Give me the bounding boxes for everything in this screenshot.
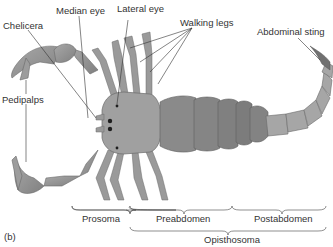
lower-pedipalp [12,150,98,193]
label-prosoma: Prosoma [82,213,120,224]
panel-label: (b) [4,231,16,242]
label-postabdomen: Postabdomen [254,213,313,224]
label-abdominal-sting: Abdominal sting [257,26,325,37]
lateral-eye-dot [116,147,119,150]
lateral-eye-dot [116,105,119,108]
label-opisthosoma: Opisthosoma [204,234,260,245]
label-lateral-eye: Lateral eye [117,3,164,14]
prosoma-carapace [102,92,162,154]
sting [310,46,330,70]
label-median-eye: Median eye [56,5,105,16]
label-pedipalps: Pedipalps [2,94,44,105]
median-eye-dot [108,127,112,131]
postabdomen-tail [266,62,333,136]
scorpion-diagram: Chelicera Median eye Lateral eye Walking… [0,0,333,247]
median-eye-dot [108,119,112,123]
label-preabdomen: Preabdomen [156,213,210,224]
scorpion-illustration [0,0,333,247]
label-walking-legs: Walking legs [180,17,234,28]
lower-walking-legs [96,150,168,200]
preabdomen-segments [160,96,268,152]
upper-pedipalp [11,44,98,80]
label-chelicera: Chelicera [3,20,43,31]
